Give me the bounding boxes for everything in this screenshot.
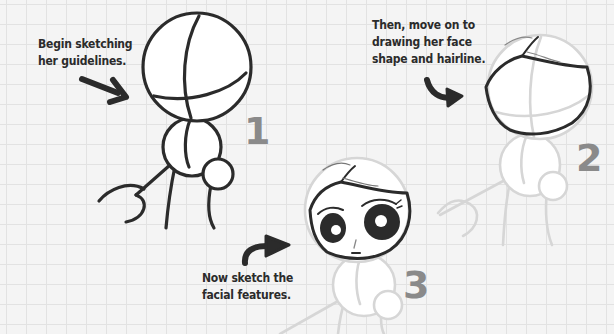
step-3-number: 3 [403, 266, 429, 304]
step-2-caption: Then, move on to drawing her face shape … [372, 17, 485, 68]
caption-line: Now sketch the [202, 270, 293, 287]
step-1-caption: Begin sketching her guidelines. [38, 36, 132, 70]
caption-line: shape and hairline. [372, 51, 485, 68]
step-1-number: 1 [244, 112, 270, 150]
arrow-icon-step-2 [427, 80, 462, 106]
arrow-icon-step-3 [245, 236, 289, 263]
step-2-number: 2 [576, 139, 602, 177]
caption-line: Begin sketching [38, 36, 132, 53]
caption-line: facial features. [202, 287, 293, 304]
caption-line: drawing her face [372, 34, 485, 51]
step-3-caption: Now sketch the facial features. [202, 270, 293, 304]
arrow-icon-step-1 [82, 79, 126, 102]
caption-line: her guidelines. [38, 53, 132, 70]
step-3-figure [280, 158, 409, 334]
caption-line: Then, move on to [372, 17, 485, 34]
